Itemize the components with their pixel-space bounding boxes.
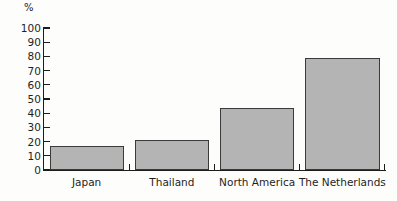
y-axis-tick-label: 50: [27, 94, 41, 104]
bar: [305, 58, 379, 170]
y-axis-tick-label: 40: [27, 108, 41, 118]
y-axis-tick-label: 70: [27, 66, 41, 76]
bar-chart: % 0102030405060708090100 JapanThailandNo…: [0, 0, 397, 201]
y-axis-tick-label: 20: [27, 137, 41, 147]
y-axis-tick-label: 80: [27, 51, 41, 61]
y-axis-tick-label: 10: [27, 151, 41, 161]
y-axis-unit-caption: %: [24, 2, 34, 13]
y-axis-tick-label: 100: [21, 23, 41, 33]
y-axis-tick-label: 30: [27, 122, 41, 132]
bar: [50, 146, 124, 170]
bar: [135, 140, 209, 170]
y-axis-tick-label: 60: [27, 80, 41, 90]
category-label: The Netherlands: [288, 176, 397, 188]
bar: [220, 108, 294, 170]
y-axis-tick-label: 90: [27, 37, 41, 47]
y-axis-tick-label: 0: [34, 165, 41, 175]
plot-area: [44, 28, 385, 170]
